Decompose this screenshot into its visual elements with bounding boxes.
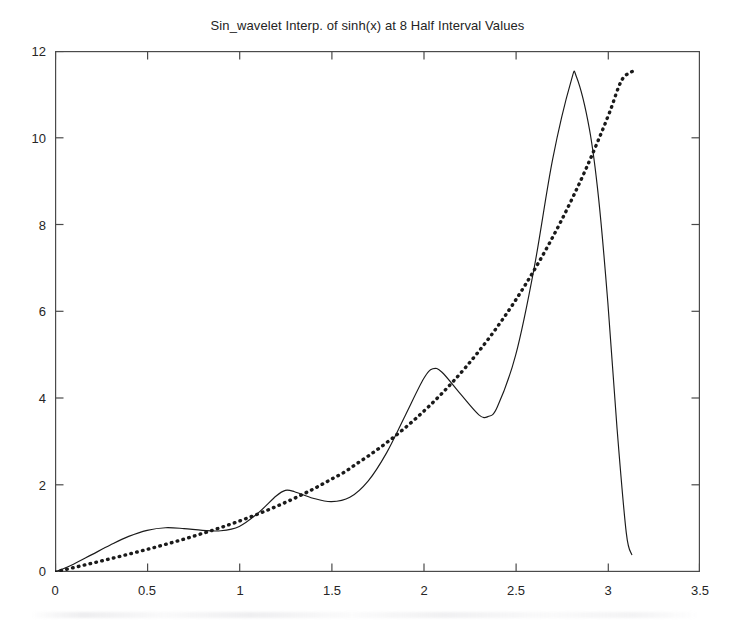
x-tick-label-2p5: 2.5	[507, 583, 525, 598]
plot-area	[55, 51, 700, 572]
x-tick-label-0p5: 0.5	[138, 583, 156, 598]
x-tick-label-2: 2	[420, 583, 427, 598]
y-tick-label-0: 0	[10, 564, 46, 579]
y-tick-label-6: 6	[10, 304, 46, 319]
figure-canvas: Sin_wavelet Interp. of sinh(x) at 8 Half…	[0, 0, 735, 628]
series-sin-wavelet-interpolant	[55, 71, 632, 572]
chart-title: Sin_wavelet Interp. of sinh(x) at 8 Half…	[0, 18, 735, 33]
x-tick-label-1: 1	[236, 583, 243, 598]
series-sinh-dotted	[55, 71, 634, 572]
x-tick-label-1p5: 1.5	[323, 583, 341, 598]
y-tick-label-12: 12	[10, 44, 46, 59]
y-tick-label-4: 4	[10, 391, 46, 406]
y-tick-label-2: 2	[10, 478, 46, 493]
y-tick-label-8: 8	[10, 218, 46, 233]
y-tick-label-10: 10	[10, 131, 46, 146]
plot-svg	[55, 51, 700, 572]
scan-artifact	[30, 612, 700, 618]
x-tick-label-3: 3	[604, 583, 611, 598]
x-tick-label-0: 0	[51, 583, 58, 598]
x-tick-label-3p5: 3.5	[691, 583, 709, 598]
